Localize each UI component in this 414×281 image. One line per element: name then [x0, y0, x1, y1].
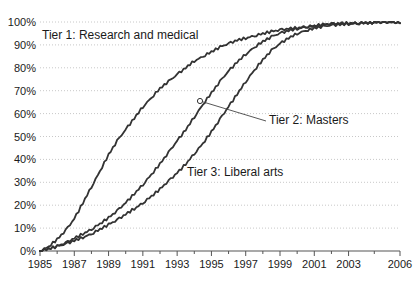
x-tick-label: 1991 — [127, 259, 159, 270]
x-tick-label: 2003 — [333, 259, 365, 270]
x-tick-label: 1993 — [161, 259, 193, 270]
x-axis-ticks — [40, 251, 400, 256]
series-marker — [197, 98, 202, 103]
x-tick-label: 1995 — [195, 259, 227, 270]
y-tick-label: 100% — [8, 17, 36, 28]
chart-container: 100%90%80%70%60%50%40%30%20%10%0% 198519… — [0, 0, 414, 281]
x-tick-label: 2006 — [384, 259, 414, 270]
x-tick-label: 1999 — [264, 259, 296, 270]
y-tick-label: 60% — [14, 109, 36, 120]
series-markers — [197, 98, 202, 103]
x-tick-label: 2001 — [298, 259, 330, 270]
y-tick-label: 50% — [14, 132, 36, 143]
annotation-leader-lines — [200, 101, 266, 121]
x-tick-label: 1985 — [24, 259, 56, 270]
y-tick-label: 10% — [14, 223, 36, 234]
y-tick-label: 40% — [14, 154, 36, 165]
y-tick-label: 80% — [14, 63, 36, 74]
leader-line — [200, 101, 266, 121]
y-tick-label: 70% — [14, 86, 36, 97]
x-tick-label: 1987 — [58, 259, 90, 270]
x-tick-label: 1989 — [93, 259, 125, 270]
line-chart — [0, 0, 414, 281]
y-tick-label: 30% — [14, 177, 36, 188]
series-label-tier-1: Tier 1: Research and medical — [42, 29, 198, 41]
y-tick-label: 20% — [14, 200, 36, 211]
y-tick-label: 0% — [20, 246, 36, 257]
series-label-tier-2: Tier 2: Masters — [269, 114, 349, 126]
series-label-tier-3: Tier 3: Liberal arts — [187, 166, 283, 178]
x-tick-label: 1997 — [230, 259, 262, 270]
y-tick-label: 90% — [14, 40, 36, 51]
